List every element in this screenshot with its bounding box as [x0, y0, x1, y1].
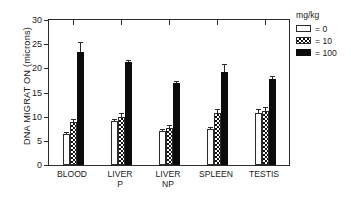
error-bar-cap: [263, 107, 268, 108]
x-axis-category-label: BLOOD: [48, 169, 96, 179]
top-axis-tick: [73, 20, 74, 25]
bar: [166, 128, 173, 165]
error-bar-cap: [256, 109, 261, 110]
legend-entry: = 0: [296, 24, 351, 33]
bar: [77, 52, 84, 165]
top-axis-tick: [265, 20, 266, 25]
legend-entries: = 0= 10= 100: [296, 24, 351, 57]
bar: [255, 113, 262, 165]
error-bar-cap: [215, 109, 220, 110]
bar: [111, 121, 118, 165]
y-axis-title: DNA MIGRAT ON (microns): [22, 6, 36, 166]
legend-entry: = 100: [296, 48, 351, 57]
error-bar-cap: [112, 119, 117, 120]
bar: [214, 113, 221, 165]
y-axis-tick-label: 5: [37, 136, 42, 146]
top-axis-tick: [169, 20, 170, 25]
y-axis-tick-label: 15: [32, 88, 42, 98]
x-axis-category-label: TESTIS: [240, 169, 288, 179]
plot-surface: 051015202530: [49, 20, 289, 165]
error-bar-cap: [78, 42, 83, 43]
legend-entry-label: = 10: [315, 36, 332, 46]
bar: [207, 129, 214, 165]
error-bar: [80, 42, 81, 52]
bar: [63, 134, 70, 165]
error-bar-cap: [174, 81, 179, 82]
error-bar-cap: [270, 76, 275, 77]
bar: [221, 72, 228, 165]
x-axis-category-label: LIVER P: [96, 169, 144, 189]
y-axis-tick: [44, 20, 49, 21]
error-bar-cap: [126, 60, 131, 61]
bar: [70, 122, 77, 165]
legend-entry: = 10: [296, 36, 351, 45]
bar: [118, 117, 125, 165]
x-axis-category-label: SPLEEN: [192, 169, 240, 179]
y-axis-tick-label: 30: [32, 15, 42, 25]
y-axis-tick: [44, 141, 49, 142]
plot-area: 051015202530: [48, 19, 290, 166]
y-axis-tick-label: 0: [37, 160, 42, 170]
bar: [159, 131, 166, 165]
error-bar: [224, 64, 225, 72]
y-axis-tick-label: 25: [32, 39, 42, 49]
legend-entry-label: = 100: [315, 48, 337, 58]
y-axis-tick: [44, 117, 49, 118]
y-axis-tick: [44, 68, 49, 69]
top-axis-tick: [121, 20, 122, 25]
bar-chart-figure: DNA MIGRAT ON (microns) 051015202530 mg/…: [0, 0, 351, 206]
error-bar-cap: [167, 125, 172, 126]
legend-entry-label: = 0: [315, 24, 327, 34]
legend-title: mg/kg: [296, 10, 351, 20]
y-axis-tick: [44, 44, 49, 45]
bar: [262, 111, 269, 165]
bar: [173, 83, 180, 165]
y-axis-tick-label: 10: [32, 112, 42, 122]
legend-swatch-white: [296, 25, 311, 32]
error-bar-cap: [208, 127, 213, 128]
error-bar-cap: [64, 132, 69, 133]
bar: [125, 62, 132, 165]
y-axis-tick-label: 20: [32, 63, 42, 73]
legend-swatch-checkered: [296, 37, 311, 44]
legend-swatch-black: [296, 49, 311, 56]
error-bar-cap: [222, 64, 227, 65]
bar: [269, 79, 276, 165]
error-bar-cap: [160, 129, 165, 130]
y-axis-tick: [44, 93, 49, 94]
error-bar-cap: [71, 119, 76, 120]
x-axis-category-label: LIVER NP: [144, 169, 192, 189]
error-bar-cap: [119, 113, 124, 114]
top-axis-tick: [217, 20, 218, 25]
y-axis-tick: [44, 165, 49, 166]
legend: mg/kg = 0= 10= 100: [296, 10, 351, 60]
